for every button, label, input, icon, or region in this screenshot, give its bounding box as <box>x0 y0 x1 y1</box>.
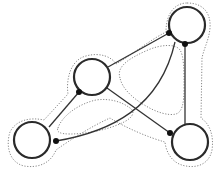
edge-middle-bottom-right <box>107 88 170 133</box>
node-bottom-right[interactable] <box>172 124 208 160</box>
port-dot <box>53 138 59 144</box>
node-bottom-left[interactable] <box>14 122 50 158</box>
port-dot <box>166 30 172 36</box>
edge-bottom-left-top-right <box>56 42 175 141</box>
port-dot <box>167 130 173 136</box>
port-dot <box>182 41 188 47</box>
node-top-right[interactable] <box>169 7 205 43</box>
graph-diagram <box>0 0 218 175</box>
edge-middle-top-right <box>108 33 169 67</box>
port-dot <box>76 89 82 95</box>
